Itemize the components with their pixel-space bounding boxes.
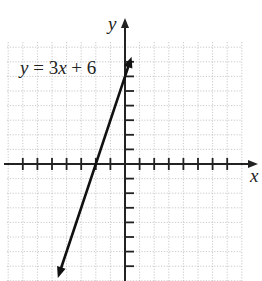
line-arrow-icon	[57, 266, 66, 278]
equation-label: y = 3x + 6	[18, 57, 96, 78]
x-axis-label: x	[249, 165, 259, 186]
y-axis-arrow-icon	[121, 18, 129, 28]
coordinate-plane: y x y = 3x + 6	[0, 0, 262, 281]
y-axis-label: y	[106, 13, 117, 34]
plot-line	[57, 57, 132, 278]
